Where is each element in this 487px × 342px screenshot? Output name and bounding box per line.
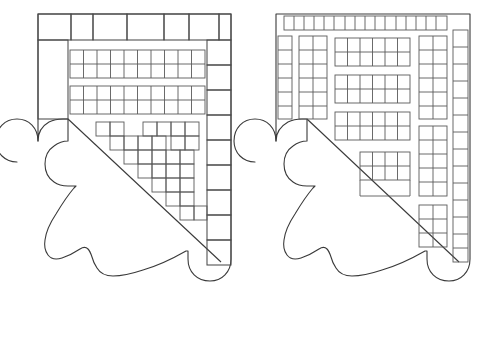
right-lobe-upper <box>234 119 276 162</box>
left-outer-profile <box>38 14 231 281</box>
left-corbel-diagram <box>0 14 231 281</box>
corbel-pattern-drawing <box>0 0 487 342</box>
left-lobe-upper <box>0 119 38 162</box>
right-corbel-diagram <box>234 14 470 281</box>
left-top-course <box>38 14 231 40</box>
right-inner-right-column <box>419 36 447 247</box>
right-course-band-1 <box>335 38 410 66</box>
left-right-column <box>207 40 231 265</box>
right-left-outer-column <box>278 36 292 119</box>
drawing-canvas <box>0 0 487 342</box>
left-diagonal-cut <box>68 119 221 262</box>
right-course-band-2 <box>335 75 410 103</box>
left-course-band-2 <box>70 86 205 114</box>
right-top-course <box>284 16 447 30</box>
right-right-column <box>453 30 468 262</box>
left-side-course <box>38 40 68 119</box>
right-left-inner-column <box>299 36 327 119</box>
right-course-band-3 <box>335 112 410 140</box>
right-course-band-4 <box>360 152 410 196</box>
left-course-band-1 <box>70 50 205 78</box>
left-stepped-courses <box>96 122 207 220</box>
right-outer-profile <box>276 14 470 281</box>
